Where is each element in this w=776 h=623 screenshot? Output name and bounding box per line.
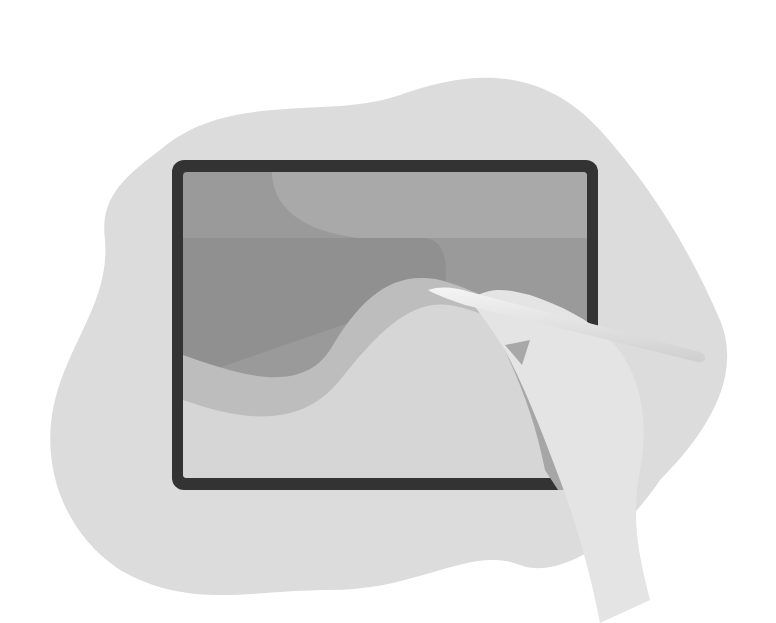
screen-shape-top — [272, 172, 600, 238]
tablet-drawing-illustration — [0, 0, 776, 623]
